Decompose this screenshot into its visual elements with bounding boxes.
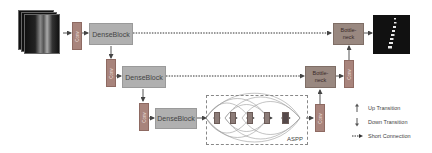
input-image-stack — [18, 10, 64, 56]
legend: Up Transition Down Transition Short Conn… — [352, 103, 432, 151]
aspp-label: ASPP — [287, 136, 303, 142]
down-arrow-icon — [352, 117, 362, 127]
conv-label: Conv — [347, 69, 352, 80]
aspp-unit-2 — [230, 112, 236, 124]
conv-block-4: Conv — [315, 104, 325, 132]
dense-block-2: DenseBlock — [122, 66, 166, 88]
aspp-unit-3 — [247, 112, 253, 124]
dense-block-label: DenseBlock — [125, 74, 162, 81]
legend-down-transition: Down Transition — [352, 117, 407, 127]
dense-block-label: DenseBlock — [157, 115, 194, 122]
bottleneck-block-1: Bottle- neck — [333, 23, 364, 45]
legend-up-label: Up Transition — [368, 105, 400, 111]
bottleneck-label: Bottle- neck — [341, 27, 357, 40]
output-segmentation-image — [373, 15, 410, 54]
legend-short-connection: Short Connection — [352, 131, 411, 141]
conv-label: Conv — [75, 31, 80, 42]
aspp-unit-5 — [282, 112, 289, 124]
aspp-unit-1 — [214, 112, 220, 124]
conv-label: Conv — [318, 113, 323, 124]
bottleneck-block-2: Bottle- neck — [305, 66, 336, 88]
dense-block-1: DenseBlock — [89, 23, 133, 45]
spine-mri-image — [24, 14, 60, 54]
dashed-arrow-icon — [352, 131, 364, 141]
legend-short-label: Short Connection — [368, 133, 411, 139]
legend-down-label: Down Transition — [368, 119, 407, 125]
legend-up-transition: Up Transition — [352, 103, 400, 113]
vertebra-mask — [373, 15, 410, 54]
bottleneck-label: Bottle- neck — [313, 70, 329, 83]
conv-block-1: Conv — [72, 22, 82, 50]
conv-label: Conv — [109, 68, 114, 79]
up-arrow-icon — [352, 103, 362, 113]
dense-block-3: DenseBlock — [155, 108, 197, 129]
conv-block-2: Conv — [106, 59, 116, 87]
conv-label: Conv — [142, 112, 147, 123]
conv-block-3: Conv — [139, 103, 149, 131]
conv-block-5: Conv — [344, 60, 354, 88]
dense-block-label: DenseBlock — [92, 31, 129, 38]
aspp-unit-4 — [264, 112, 270, 124]
